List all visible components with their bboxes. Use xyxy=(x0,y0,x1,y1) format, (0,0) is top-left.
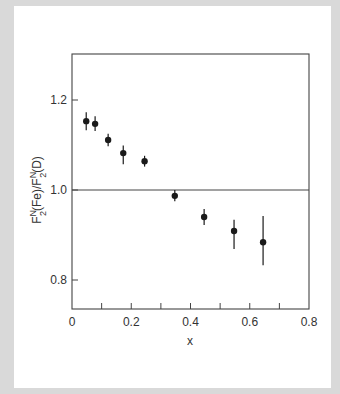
x-axis-ticks: 00.20.40.60.8 xyxy=(69,303,318,329)
data-point xyxy=(120,145,126,164)
y-axis-title: FN2(Fe)/FN2(D) xyxy=(28,156,48,224)
point-marker xyxy=(83,118,89,124)
plot-frame xyxy=(72,54,309,309)
x-tick-label: 0.6 xyxy=(241,315,258,329)
x-tick-label: 0.8 xyxy=(301,315,318,329)
data-point xyxy=(92,116,98,131)
plot-border xyxy=(72,54,309,309)
point-marker xyxy=(201,214,207,220)
x-tick-label: 0.4 xyxy=(182,315,199,329)
y-tick-label: 0.8 xyxy=(50,273,67,287)
point-marker xyxy=(231,228,237,234)
point-marker xyxy=(141,158,147,164)
x-tick-label: 0 xyxy=(69,315,76,329)
y-tick-label: 1.0 xyxy=(50,183,67,197)
y-tick-label: 1.2 xyxy=(50,93,67,107)
point-marker xyxy=(260,239,266,245)
data-point xyxy=(105,134,111,147)
data-point xyxy=(231,220,237,249)
data-point xyxy=(260,216,266,265)
point-marker xyxy=(172,193,178,199)
data-points xyxy=(83,112,266,265)
point-marker xyxy=(92,121,98,127)
data-point xyxy=(83,112,89,130)
y-axis-ticks: 0.81.01.2 xyxy=(50,93,78,287)
point-marker xyxy=(105,137,111,143)
x-tick-label: 0.2 xyxy=(123,315,140,329)
x-axis-title: x xyxy=(187,334,193,348)
chart-svg: 00.20.40.60.8 0.81.01.2 x FN2(Fe)/FN2(D) xyxy=(0,0,340,394)
data-point xyxy=(201,209,207,225)
point-marker xyxy=(120,150,126,156)
data-point xyxy=(141,156,147,167)
data-point xyxy=(172,190,178,201)
